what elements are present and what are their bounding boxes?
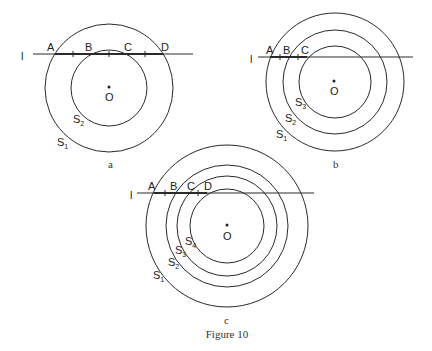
center-label: O — [105, 91, 114, 103]
point-a-label: A — [148, 180, 156, 192]
point-c-label: C — [124, 41, 132, 53]
point-a-label: A — [266, 44, 274, 56]
point-c-label: C — [301, 44, 309, 56]
panel-b-label: b — [333, 158, 339, 170]
panel-c: l A B C D O S4 S3 S2 S1 c — [130, 145, 314, 326]
point-d-label: D — [204, 180, 212, 192]
panel-b: l A B C O S3 S2 S1 b — [250, 13, 413, 170]
line-label: l — [21, 50, 23, 62]
line-label: l — [130, 189, 132, 201]
figure-caption: Figure 10 — [206, 328, 249, 340]
point-b-label: B — [170, 180, 177, 192]
circle-s4-label: S4 — [185, 235, 196, 249]
line-label: l — [250, 53, 252, 65]
panel-a-label: a — [108, 158, 113, 170]
circle-s3-label: S3 — [295, 96, 306, 110]
center-label: O — [330, 85, 339, 97]
point-b-label: B — [85, 41, 92, 53]
circle-s1-label: S1 — [57, 136, 68, 150]
point-b-label: B — [283, 44, 290, 56]
point-c-label: C — [187, 180, 195, 192]
panel-c-label: c — [224, 314, 229, 326]
circle-s1-label: S1 — [153, 269, 164, 283]
point-d-label: D — [161, 41, 169, 53]
figure-10-diagram: l A B C D O S2 S1 a l A B C O S3 S2 S1 b — [0, 0, 432, 351]
center-point — [333, 80, 336, 83]
center-point — [108, 86, 111, 89]
point-a-label: A — [47, 41, 55, 53]
panel-a: l A B C D O S2 S1 a — [21, 24, 193, 170]
center-label: O — [223, 230, 232, 242]
circle-s2-label: S2 — [168, 256, 179, 270]
center-point — [226, 224, 229, 227]
